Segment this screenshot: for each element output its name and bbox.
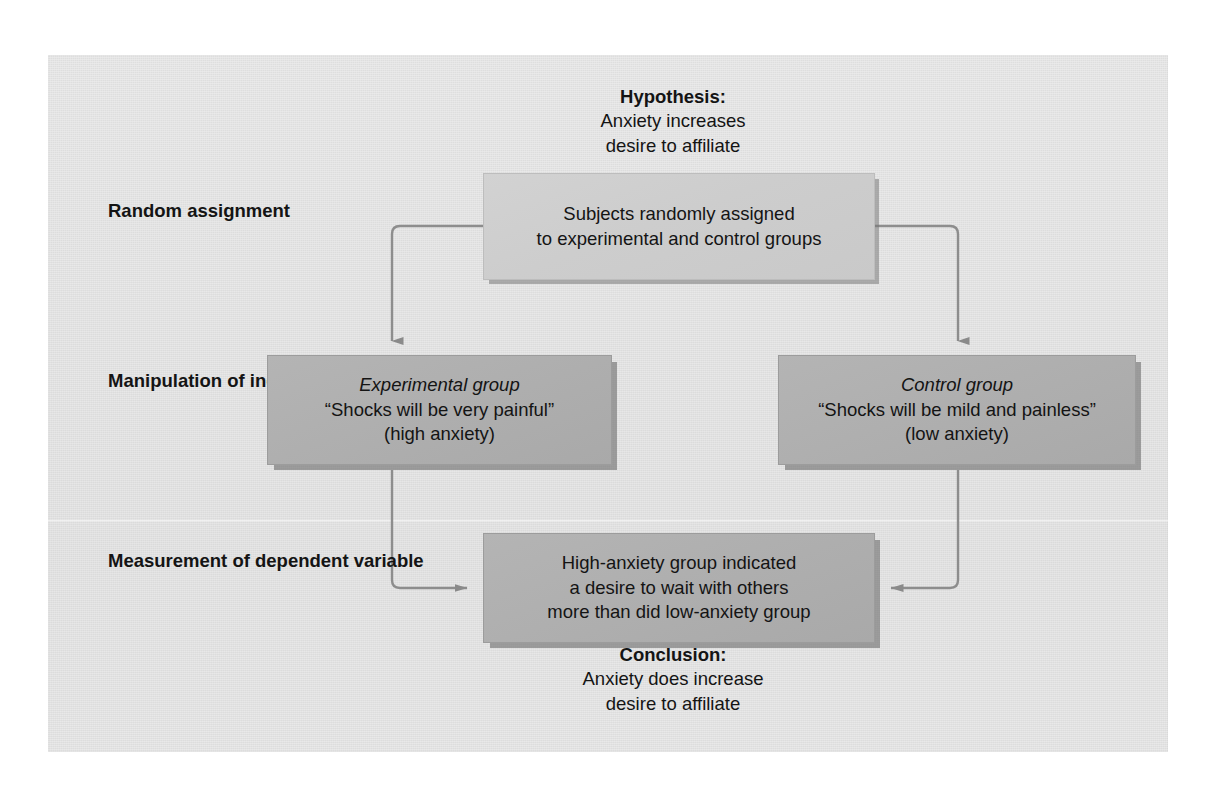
conclusion-line-1: Anxiety does increase [478, 667, 868, 691]
scan-seam-artifact [48, 520, 1168, 522]
box-result: High-anxiety group indicated a desire to… [483, 533, 875, 643]
box-random-assignment-line-1: Subjects randomly assigned [537, 202, 822, 227]
conclusion-caption: Conclusion: Anxiety does increase desire… [478, 643, 868, 716]
stage-random-line-1: Random [108, 200, 182, 221]
box-experimental-group: Experimental group “Shocks will be very … [267, 355, 612, 465]
box-control-group-line-1: “Shocks will be mild and painless” [818, 398, 1096, 423]
box-experimental-group-title: Experimental group [325, 373, 554, 398]
box-control-group-line-2: (low anxiety) [818, 422, 1096, 447]
hypothesis-heading: Hypothesis: [478, 85, 868, 109]
box-experimental-group-line-2: (high anxiety) [325, 422, 554, 447]
box-result-text: High-anxiety group indicated a desire to… [547, 551, 810, 625]
hypothesis-caption: Hypothesis: Anxiety increases desire to … [478, 85, 868, 158]
stage-manipulation-line-1: Manipulation of [108, 370, 245, 391]
stage-measurement-line-1: Measurement of [108, 550, 250, 571]
stage-random-line-2: assignment [187, 200, 290, 221]
conclusion-heading: Conclusion: [478, 643, 868, 667]
box-result-line-1: High-anxiety group indicated [547, 551, 810, 576]
box-result-line-3: more than did low-anxiety group [547, 600, 810, 625]
box-experimental-group-text: Experimental group “Shocks will be very … [325, 373, 554, 447]
box-control-group-title: Control group [818, 373, 1096, 398]
box-control-group-text: Control group “Shocks will be mild and p… [818, 373, 1096, 447]
box-random-assignment-text: Subjects randomly assigned to experiment… [537, 202, 822, 252]
stage-label-random-assignment: Random assignment [108, 198, 290, 224]
hypothesis-line-1: Anxiety increases [478, 109, 868, 133]
box-control-group: Control group “Shocks will be mild and p… [778, 355, 1136, 465]
box-random-assignment-line-2: to experimental and control groups [537, 227, 822, 252]
stage-label-measurement-of-dependent-variable: Measurement of dependent variable [108, 548, 424, 574]
box-random-assignment: Subjects randomly assigned to experiment… [483, 173, 875, 280]
stage-measurement-line-2: dependent variable [255, 550, 424, 571]
figure-panel: Hypothesis: Anxiety increases desire to … [48, 55, 1168, 752]
box-experimental-group-line-1: “Shocks will be very painful” [325, 398, 554, 423]
conclusion-line-2: desire to affiliate [478, 692, 868, 716]
box-result-line-2: a desire to wait with others [547, 576, 810, 601]
hypothesis-line-2: desire to affiliate [478, 134, 868, 158]
